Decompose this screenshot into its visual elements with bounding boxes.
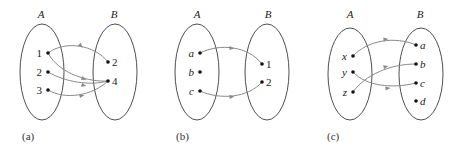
set-b-label: B — [265, 8, 272, 20]
element-a-2: 2 — [37, 66, 43, 78]
element-b-4: 4 — [112, 75, 118, 87]
arrow-c-to-2 — [200, 82, 262, 96]
arrow-y-to-c — [353, 72, 416, 86]
element-b-2: 2 — [112, 56, 118, 68]
element-b-1: 1 — [266, 58, 272, 70]
caption-a: (a) — [22, 130, 35, 143]
element-b-2: 2 — [266, 76, 272, 88]
element-b-c: c — [420, 77, 425, 89]
arrow-1-to-2 — [48, 46, 108, 62]
set-b-label: B — [417, 8, 424, 20]
element-a-a: a — [189, 47, 195, 59]
element-a-z: z — [342, 86, 348, 98]
element-a-1: 1 — [37, 47, 43, 59]
element-a-x: x — [341, 50, 347, 62]
element-b-d: d — [420, 95, 426, 107]
set-a-ellipse — [175, 24, 219, 120]
arrow-2-to-4 — [48, 72, 108, 83]
set-a-label: A — [193, 8, 201, 20]
diagram-a: A B 1 2 3 2 4 (a) — [20, 8, 137, 143]
caption-c: (c) — [327, 130, 340, 143]
set-a-ellipse — [328, 28, 372, 120]
function-mapping-diagrams: A B 1 2 3 2 4 (a) A B — [0, 0, 467, 154]
set-a-label: A — [346, 8, 354, 20]
caption-b: (b) — [176, 130, 189, 143]
arrow-x-to-a — [353, 40, 416, 56]
set-b-ellipse — [245, 24, 289, 120]
element-b-a: a — [420, 39, 426, 51]
diagram-b: A B a b c 1 2 (b) — [175, 8, 289, 143]
set-b-label: B — [111, 8, 118, 20]
element-a-y: y — [341, 66, 347, 78]
element-a-b: b — [189, 66, 195, 78]
set-b-ellipse — [93, 24, 137, 120]
element-a-3: 3 — [37, 84, 43, 96]
arrow-a-to-1 — [200, 47, 262, 64]
element-a-c: c — [189, 85, 194, 97]
arrow-z-to-b — [353, 64, 416, 92]
element-b-b: b — [420, 58, 426, 70]
set-a-label: A — [37, 8, 45, 20]
set-a-ellipse — [20, 24, 64, 120]
diagram-c: A B x y z a b c d (c) — [327, 8, 443, 143]
